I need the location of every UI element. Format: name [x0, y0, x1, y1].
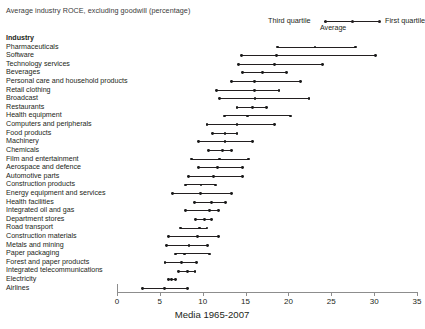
x-tick-label: 25 — [327, 297, 336, 306]
marker-average — [224, 132, 227, 135]
x-tick-label: 15 — [241, 297, 250, 306]
marker-first-quartile — [214, 184, 217, 187]
marker-third-quartile — [193, 201, 196, 204]
range-row — [117, 137, 417, 146]
range-line — [220, 98, 309, 99]
legend-label-third-quartile: Third quartile — [268, 16, 311, 25]
marker-first-quartile — [195, 261, 198, 264]
industry-label: Construction materials — [6, 232, 118, 241]
legend-dot-first-quartile — [378, 20, 381, 23]
marker-first-quartile — [206, 244, 209, 247]
marker-third-quartile — [197, 140, 200, 143]
industry-label: Pharmaceuticals — [6, 43, 118, 52]
marker-average — [199, 192, 202, 195]
range-row — [117, 206, 417, 215]
marker-first-quartile — [285, 71, 288, 74]
industry-label: Department stores — [6, 215, 118, 224]
range-row — [117, 267, 417, 276]
industry-label: Chemicals — [6, 146, 118, 155]
industry-label: Construction products — [6, 180, 118, 189]
x-tick — [203, 292, 204, 296]
legend-dot-average — [351, 20, 354, 23]
plot-area — [117, 34, 417, 292]
legend-label-first-quartile: First quartile — [385, 16, 425, 25]
range-line — [277, 47, 355, 48]
marker-third-quartile — [190, 158, 193, 161]
x-tick — [160, 292, 161, 296]
legend-label-average: Average — [320, 24, 346, 32]
marker-first-quartile — [230, 192, 233, 195]
industry-label: Aerospace and defence — [6, 163, 118, 172]
range-row — [117, 103, 417, 112]
x-tick-label: 35 — [413, 297, 422, 306]
range-row — [117, 215, 417, 224]
x-tick-label: 5 — [158, 297, 162, 306]
range-row — [117, 275, 417, 284]
range-line — [242, 72, 287, 73]
industry-label: Beverages — [6, 68, 118, 77]
marker-first-quartile — [278, 89, 281, 92]
legend-dot-third-quartile — [324, 20, 327, 23]
x-tick — [117, 292, 118, 296]
industry-label: Airlines — [6, 284, 118, 293]
marker-average — [253, 80, 256, 83]
marker-third-quartile — [223, 115, 226, 118]
marker-first-quartile — [251, 140, 254, 143]
range-row — [117, 163, 417, 172]
industry-label: Computers and peripherals — [6, 120, 118, 129]
range-line — [198, 167, 242, 168]
range-line — [173, 193, 232, 194]
marker-average — [275, 54, 278, 57]
range-row — [117, 68, 417, 77]
marker-average — [314, 46, 317, 49]
marker-third-quartile — [141, 287, 144, 290]
industry-label-column: Industry PharmaceuticalsSoftwareTechnolo… — [6, 34, 118, 292]
marker-third-quartile — [177, 270, 180, 273]
marker-average — [236, 123, 239, 126]
marker-first-quartile — [217, 235, 220, 238]
range-row — [117, 60, 417, 69]
marker-average — [216, 166, 219, 169]
range-row — [117, 250, 417, 259]
range-row — [117, 198, 417, 207]
marker-third-quartile — [171, 192, 174, 195]
marker-third-quartile — [164, 261, 167, 264]
marker-third-quartile — [194, 218, 197, 221]
marker-average — [186, 270, 189, 273]
range-row — [117, 129, 417, 138]
marker-average — [261, 71, 264, 74]
range-line — [188, 176, 242, 177]
marker-third-quartile — [236, 106, 239, 109]
marker-average — [183, 253, 186, 256]
industry-label: Software — [6, 51, 118, 60]
marker-average — [218, 158, 221, 161]
marker-average — [210, 201, 213, 204]
industry-label: Personal care and household products — [6, 77, 118, 86]
marker-first-quartile — [308, 97, 311, 100]
marker-average — [212, 175, 215, 178]
range-row — [117, 94, 417, 103]
industry-label: Technology services — [6, 60, 118, 69]
marker-first-quartile — [265, 106, 268, 109]
marker-average — [221, 149, 224, 152]
industry-label: Film and entertainment — [6, 155, 118, 164]
range-row — [117, 77, 417, 86]
marker-average — [203, 218, 206, 221]
marker-average — [163, 287, 166, 290]
marker-first-quartile — [374, 54, 377, 57]
y-axis-stub — [117, 284, 118, 292]
marker-average — [200, 184, 203, 187]
x-tick — [374, 292, 375, 296]
marker-third-quartile — [187, 175, 190, 178]
range-line — [207, 124, 275, 125]
industry-label: Metals and mining — [6, 241, 118, 250]
x-tick-label: 0 — [115, 297, 119, 306]
marker-first-quartile — [174, 278, 177, 281]
marker-first-quartile — [241, 175, 244, 178]
x-tick-label: 10 — [198, 297, 207, 306]
industry-label: Paper packaging — [6, 249, 118, 258]
marker-first-quartile — [186, 287, 189, 290]
marker-average — [170, 278, 173, 281]
marker-first-quartile — [208, 253, 211, 256]
marker-first-quartile — [206, 227, 209, 230]
